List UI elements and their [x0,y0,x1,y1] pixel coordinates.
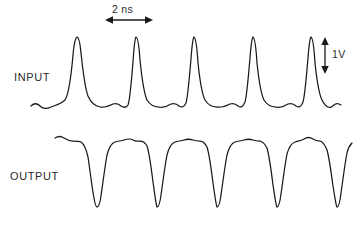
waveform-canvas [0,0,358,229]
voltage-scale-arrow-icon [321,37,328,74]
time-scale-label: 2 ns [112,3,133,15]
voltage-scale-label: 1V [332,48,345,60]
input-series-label: INPUT [14,71,50,83]
input-waveform-trace [31,37,341,108]
waveform-figure: INPUT OUTPUT 2 ns 1V [0,0,358,229]
output-waveform-trace [55,137,352,208]
time-scale-arrow-icon [105,16,153,24]
output-series-label: OUTPUT [10,170,59,182]
